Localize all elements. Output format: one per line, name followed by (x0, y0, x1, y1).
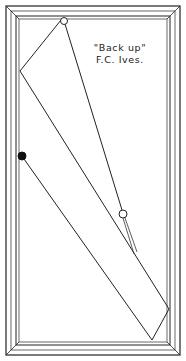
corner-miter-top-right (167, 6, 180, 19)
corner-miter-bottom-right (167, 342, 180, 355)
path-right-cushion-to-bottom (152, 309, 169, 340)
cue-ball (61, 18, 68, 25)
path-cue-to-left-cushion (20, 20, 61, 71)
cue-stick-line-1 (123, 218, 134, 254)
caption-author: F.C. Ives. (88, 54, 152, 66)
path-left-cushion-to-right-cushion (20, 71, 169, 309)
cue-stick-line-2 (125, 218, 137, 252)
corner-miter-top-left (6, 6, 19, 19)
table-playing-surface (19, 19, 167, 342)
object-ball-black (18, 152, 26, 160)
corner-miter-bottom-left (6, 342, 19, 355)
object-ball-white (119, 210, 127, 218)
diagram-caption: "Back up" F.C. Ives. (88, 42, 152, 66)
caption-title: "Back up" (88, 42, 152, 54)
